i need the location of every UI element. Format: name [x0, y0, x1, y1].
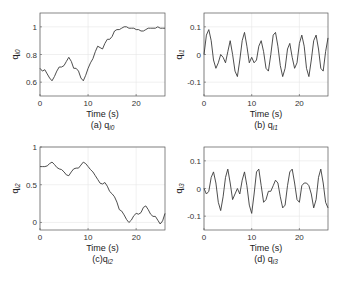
axes-box	[40, 147, 165, 230]
data-line	[40, 27, 165, 81]
y-tick-label: 0.8	[26, 51, 38, 60]
x-tick-label: 10	[84, 233, 93, 242]
x-axis-label: Time (s)	[86, 109, 119, 119]
x-tick-label: 20	[132, 233, 141, 242]
x-tick-label: 20	[295, 233, 304, 242]
x-tick-label: 10	[84, 99, 93, 108]
y-axis-label: qi3	[174, 183, 185, 193]
subplot-c: 0102000.51Time (s)(c)qi2qi2	[10, 143, 165, 265]
x-axis-label: Time (s)	[250, 243, 283, 253]
subplot-caption: (a) qi0	[91, 120, 115, 131]
y-tick-label: 1	[33, 143, 38, 152]
y-axis-label: qi0	[10, 49, 21, 59]
y-tick-label: -0.1	[187, 78, 201, 87]
x-axis-label: Time (s)	[250, 109, 283, 119]
subplot-b: 01020-0.100.1Time (s)(b) qi1qi1	[174, 13, 328, 131]
x-tick-label: 20	[295, 99, 304, 108]
subplot-a: 010200.60.81Time (s)(a) qi0qi0	[10, 13, 165, 131]
y-tick-label: -0.1	[187, 212, 201, 221]
x-axis-label: Time (s)	[86, 243, 119, 253]
x-tick-label: 0	[202, 233, 207, 242]
x-tick-label: 10	[247, 233, 256, 242]
subplot-caption: (b) qi1	[254, 120, 278, 131]
y-axis-label: qi1	[174, 49, 185, 59]
data-line	[40, 162, 165, 224]
y-tick-label: 0.1	[190, 23, 202, 32]
subplot-caption: (d) qi3	[254, 254, 278, 265]
data-line	[204, 169, 328, 213]
subplot-d: 01020-0.100.1Time (s)(d) qi3qi3	[174, 147, 328, 265]
figure: 010200.60.81Time (s)(a) qi0qi0 01020-0.1…	[0, 0, 341, 284]
data-line	[204, 30, 328, 77]
y-tick-label: 0	[197, 185, 202, 194]
y-tick-label: 0.6	[26, 78, 38, 87]
x-tick-label: 0	[38, 233, 43, 242]
x-tick-label: 20	[132, 99, 141, 108]
y-tick-label: 0	[197, 51, 202, 60]
x-tick-label: 0	[202, 99, 207, 108]
y-tick-label: 0.5	[26, 181, 38, 190]
y-tick-label: 0	[33, 218, 38, 227]
x-tick-label: 0	[38, 99, 43, 108]
y-tick-label: 1	[33, 23, 38, 32]
y-axis-label: qi2	[10, 183, 21, 193]
subplot-caption: (c)qi2	[92, 254, 113, 265]
x-tick-label: 10	[247, 99, 256, 108]
y-tick-label: 0.1	[190, 157, 202, 166]
